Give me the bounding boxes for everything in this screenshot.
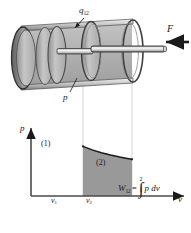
v2-tick-label: v2 xyxy=(86,197,92,206)
thermodynamics-figure xyxy=(0,0,191,233)
gas-volume xyxy=(36,27,66,85)
heat-label-sub: 12 xyxy=(84,10,89,16)
v1-tick-label: v1 xyxy=(51,197,57,206)
force-label: F xyxy=(167,24,173,34)
piston-rod xyxy=(91,46,167,52)
lower-limit: 1 xyxy=(139,187,142,193)
v2-sub: 2 xyxy=(90,200,92,205)
pv-diagram xyxy=(31,128,184,196)
p-axis-label: p xyxy=(20,124,25,133)
piston-cylinder-apparatus xyxy=(12,18,190,92)
cylinder-pressure-label: p xyxy=(63,93,68,102)
inner-rod xyxy=(57,49,93,55)
integrand: p dv xyxy=(144,183,159,193)
state-2-label: (2) xyxy=(96,159,105,167)
state-point-1 xyxy=(82,145,84,147)
v1-sub: 1 xyxy=(55,200,57,205)
eq-lhs: W xyxy=(118,183,126,193)
heat-label: q12 xyxy=(79,6,89,16)
integral-limits: 21 xyxy=(139,176,142,193)
state-1-label: (1) xyxy=(41,140,50,148)
eq-lhs-sub: 12 xyxy=(126,188,131,194)
v-axis-label: v xyxy=(178,195,182,204)
upper-limit: 2 xyxy=(139,176,142,182)
state-point-2 xyxy=(131,158,133,160)
work-integral-equation: W12=∫21p dv xyxy=(118,176,160,197)
eq-equals: = xyxy=(132,183,137,193)
cylinder xyxy=(12,19,144,90)
